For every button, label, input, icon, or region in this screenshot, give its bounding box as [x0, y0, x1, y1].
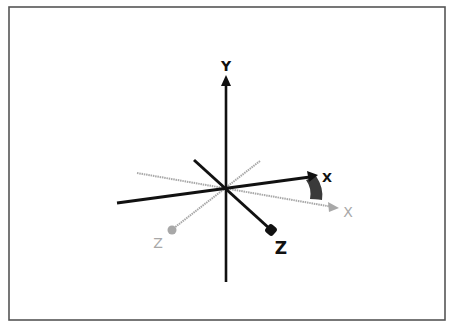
original-z-tip-icon	[168, 226, 177, 235]
axes-diagram: Y X Z X Z	[0, 0, 452, 325]
original-x-label: X	[343, 204, 353, 220]
original-z-label: Z	[153, 235, 163, 251]
rotated-z-label: Z	[275, 238, 287, 258]
rotated-x-label: X	[322, 170, 332, 185]
y-axis-label: Y	[220, 58, 232, 74]
